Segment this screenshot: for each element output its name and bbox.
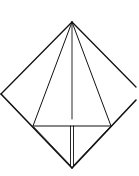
- outer-edge-upper-right: [72, 22, 136, 87]
- lower-flap-inner-right: [73, 127, 110, 166]
- outer-edge-upper-left: [1, 22, 72, 94]
- kite-fold-right: [72, 22, 111, 126]
- origami-diagram: [0, 0, 139, 176]
- kite-fold-left: [33, 22, 72, 126]
- outer-edge-lower-left: [1, 94, 72, 168]
- outer-edge-lower-right: [72, 100, 136, 168]
- lower-flap-inner-left: [34, 127, 71, 166]
